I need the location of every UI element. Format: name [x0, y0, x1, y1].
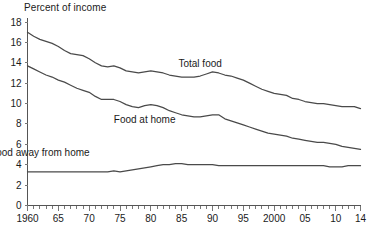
series-line-2: [28, 164, 361, 172]
y-tick-label: 16: [10, 37, 22, 48]
x-tick-label: 95: [238, 213, 250, 224]
y-tick-label: 8: [16, 118, 22, 129]
series-line-1: [28, 66, 361, 150]
series-line-0: [28, 32, 361, 108]
x-tick-label: 65: [53, 213, 65, 224]
x-tick-label: 14: [355, 213, 367, 224]
series-annotations: Total foodFood at homeFood away from hom…: [0, 58, 222, 158]
x-tick-label: 70: [84, 213, 96, 224]
x-tick-label: 90: [207, 213, 219, 224]
food-spending-chart: Percent of income 024681012141618 196065…: [0, 0, 377, 242]
x-tick-label: 85: [176, 213, 188, 224]
y-tick-label: 4: [16, 159, 22, 170]
y-tick-label: 18: [10, 17, 22, 28]
y-tick-label: 10: [10, 98, 22, 109]
y-tick-label: 14: [10, 57, 22, 68]
x-axis: 1960657075808590952000051014: [16, 206, 366, 224]
y-axis: 024681012141618: [10, 17, 27, 212]
y-tick-label: 12: [10, 78, 22, 89]
y-tick-label: 0: [16, 200, 22, 211]
plot-area: 024681012141618 196065707580859095200005…: [0, 0, 377, 242]
x-tick-label: 2000: [263, 213, 286, 224]
series-label-2: Food away from home: [0, 147, 90, 158]
x-tick-label: 1960: [16, 213, 39, 224]
x-tick-label: 80: [145, 213, 157, 224]
x-tick-label: 10: [330, 213, 342, 224]
series-label-1: Food at home: [114, 114, 176, 125]
x-tick-label: 05: [299, 213, 311, 224]
series-label-0: Total food: [178, 58, 221, 69]
y-tick-label: 2: [16, 180, 22, 191]
x-tick-label: 75: [114, 213, 126, 224]
